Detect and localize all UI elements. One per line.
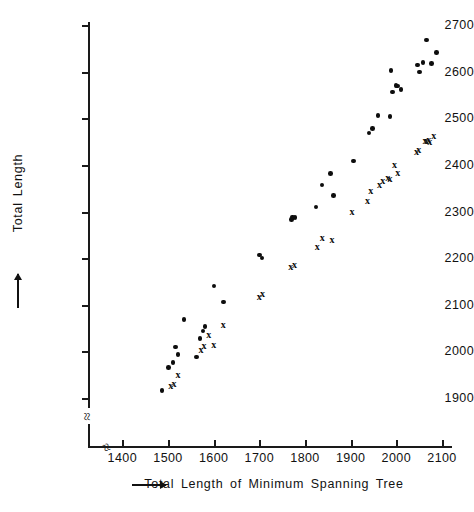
y-tick-2200 [82,258,89,260]
y-tick-label-1900: 1900 [396,392,474,405]
data-point-dot [351,159,356,164]
data-point-dot [173,345,178,350]
data-point-cross: x [421,135,430,146]
y-axis-break-icon: ≈ [79,412,94,420]
data-point-dot [367,131,372,136]
data-point-dot [260,256,265,261]
data-point-dot [320,183,325,188]
x-axis-title-arrow-icon [132,484,166,486]
data-point-cross: x [219,319,228,330]
data-point-dot [290,215,295,220]
y-tick-2000 [82,351,89,353]
data-point-dot [182,317,187,322]
data-point-cross: x [255,291,264,302]
y-tick-label-2000: 2000 [396,345,474,358]
y-tick-2300 [82,212,89,214]
scatter-plot-figure: ≈ ≈ 190020002100220023002400250026002700… [0,0,474,512]
y-axis-lower-stub [88,424,90,448]
data-point-dot [395,84,400,89]
data-point-cross: x [318,232,327,243]
data-point-cross: x [424,134,433,145]
data-point-dot [389,68,394,73]
x-tick-1700 [259,440,261,447]
data-point-dot [166,365,171,370]
data-point-dot [257,253,262,258]
data-point-dot [314,205,319,210]
data-point-dot [221,300,226,305]
x-tick-1900 [351,440,353,447]
data-point-cross: x [422,135,431,146]
data-point-dot [289,217,294,222]
data-point-dot [421,60,426,65]
x-tick-1500 [168,440,170,447]
data-point-dot [394,83,399,88]
y-tick-2600 [82,72,89,74]
data-point-dot [198,336,203,341]
data-point-dot [370,126,375,131]
data-point-cross: x [286,261,295,272]
data-point-cross: x [385,173,394,184]
data-point-dot [201,329,206,334]
data-point-cross: x [204,329,213,340]
data-point-cross: x [429,130,438,141]
data-point-cross: x [258,288,267,299]
data-point-dot [424,38,429,43]
data-point-dot [176,352,181,357]
data-point-cross: x [166,380,175,391]
data-point-cross: x [378,175,387,186]
data-point-dot [171,360,176,365]
data-point-cross: x [363,195,372,206]
data-point-dot [376,113,381,118]
data-point-cross: x [313,241,322,252]
data-point-cross: x [414,144,423,155]
data-point-dot [388,114,393,119]
data-point-dot [293,215,298,220]
data-point-dot [399,87,404,92]
y-tick-1900 [82,398,89,400]
data-point-dot [212,284,217,289]
y-tick-label-2300: 2300 [396,206,474,219]
y-tick-2700 [82,25,89,27]
y-tick-2400 [82,165,89,167]
data-point-cross: x [169,378,178,389]
data-point-dot [390,90,395,95]
data-point-dot [331,193,336,198]
data-point-cross: x [290,259,299,270]
data-point-cross: x [200,340,209,351]
data-point-cross: x [366,185,375,196]
y-axis-title-arrow-icon [17,274,19,308]
x-tick-2000 [396,440,398,447]
x-tick-2100 [442,440,444,447]
y-tick-label-2500: 2500 [396,112,474,125]
x-tick-1400 [122,440,124,447]
y-tick-2500 [82,118,89,120]
data-point-dot [434,50,439,55]
data-point-dot [203,324,208,329]
y-axis-title: Total Length [11,113,25,273]
x-tick-1600 [214,440,216,447]
y-tick-label-2700: 2700 [396,19,474,32]
x-tick-label-2100: 2100 [415,452,469,465]
data-point-cross: x [174,369,183,380]
y-axis-line [88,22,90,408]
data-point-dot [160,388,165,393]
y-tick-label-2600: 2600 [396,66,474,79]
data-point-cross: x [209,339,218,350]
data-point-cross: x [412,146,421,157]
data-point-dot [194,355,199,360]
data-point-cross: x [375,179,384,190]
y-tick-label-2400: 2400 [396,159,474,172]
data-point-dot [328,171,333,176]
data-point-cross: x [327,234,336,245]
data-point-cross: x [383,172,392,183]
y-tick-label-2200: 2200 [396,252,474,265]
y-tick-label-2100: 2100 [396,299,474,312]
data-point-cross: x [425,136,434,147]
x-tick-1800 [305,440,307,447]
data-point-cross: x [348,206,357,217]
y-tick-2100 [82,305,89,307]
data-point-cross: x [196,344,205,355]
